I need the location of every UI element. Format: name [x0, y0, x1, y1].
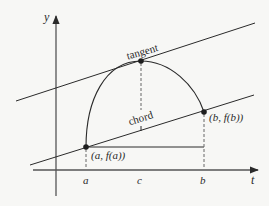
point-a-label: (a, f(a))	[91, 149, 126, 162]
point-a	[83, 144, 89, 150]
y-axis-label: y	[43, 10, 50, 24]
tick-a: a	[83, 174, 89, 186]
t-axis-label: t	[251, 173, 255, 187]
chord-line	[30, 95, 254, 165]
point-c	[138, 58, 144, 64]
point-b-label: (b, f(b))	[209, 111, 244, 124]
chord-label: chord	[127, 108, 155, 127]
tangent-line	[16, 23, 255, 101]
tick-c: c	[137, 174, 142, 186]
function-curve	[86, 61, 204, 147]
point-b	[201, 109, 207, 115]
tick-b: b	[200, 174, 206, 186]
mvt-diagram: y t tangent chord (a, f(a)) (b, f(b)) a …	[0, 0, 269, 206]
